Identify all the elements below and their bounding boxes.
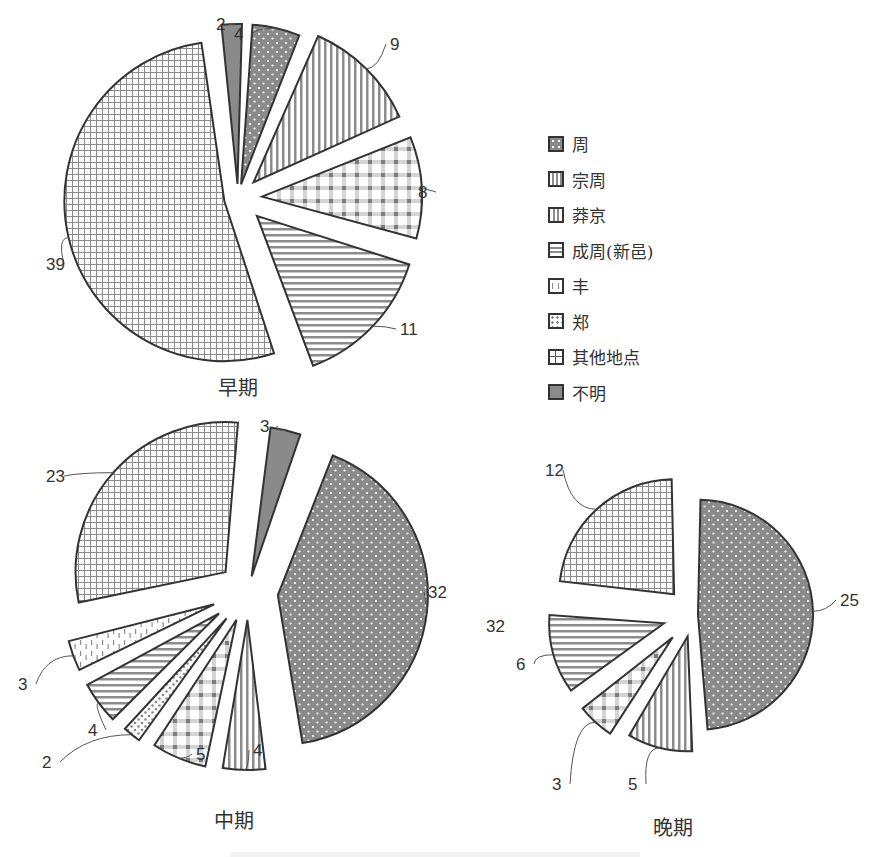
pie-slice xyxy=(257,216,409,366)
pie-slice xyxy=(698,500,813,730)
leader-line xyxy=(64,473,113,476)
leader-line xyxy=(534,655,554,664)
legend-item-zheng: 郑 xyxy=(548,304,653,340)
cropped-caption xyxy=(230,852,640,857)
stray-annotation-label: 32 xyxy=(486,617,505,636)
slice-value-label: 8 xyxy=(418,183,427,202)
slice-value-label: 23 xyxy=(46,467,65,486)
legend-item-pangjing: 莽京 xyxy=(548,197,653,233)
slice-value-label: 2 xyxy=(216,15,225,34)
slice-value-label: 5 xyxy=(628,775,637,794)
leader-line xyxy=(373,326,396,329)
early-period-title: 早期 xyxy=(218,372,258,401)
swatch-vertical-stripes-icon xyxy=(548,207,564,223)
swatch-horizontal-stripes-icon xyxy=(548,242,564,258)
legend-item-other: 其他地点 xyxy=(548,339,653,375)
legend-label: 丰 xyxy=(572,273,589,298)
late-period-title: 晚期 xyxy=(653,812,693,841)
slice-value-label: 4 xyxy=(234,25,243,44)
legend-item-chengzhou: 成周(新邑) xyxy=(548,233,653,269)
pie-chart-early: 24981139 xyxy=(46,15,436,366)
slice-value-label: 6 xyxy=(516,655,525,674)
pie-slice xyxy=(278,456,428,744)
leader-line xyxy=(646,748,660,784)
legend-label: 成周(新邑) xyxy=(572,238,653,263)
pie-charts-canvas: 249811393324524323255361232 xyxy=(0,0,880,857)
pie-chart-late: 255361232 xyxy=(486,461,859,794)
swatch-solid-gray-icon xyxy=(548,384,564,400)
swatch-grid-icon xyxy=(548,349,564,365)
swatch-dots-light-icon xyxy=(548,313,564,329)
slice-value-label: 3 xyxy=(260,417,269,436)
pie-slice xyxy=(560,479,674,594)
pie-slice xyxy=(221,24,242,184)
swatch-dashes-icon xyxy=(548,278,564,294)
legend-item-feng: 丰 xyxy=(548,268,653,304)
slice-value-label: 3 xyxy=(18,675,27,694)
legend-label: 不明 xyxy=(572,380,606,405)
leader-line xyxy=(813,600,836,611)
slice-value-label: 9 xyxy=(390,35,399,54)
leader-line xyxy=(563,470,597,509)
slice-value-label: 39 xyxy=(46,255,65,274)
leader-line xyxy=(36,656,73,684)
legend-item-zongzhou: 宗周 xyxy=(548,162,653,198)
middle-period-title: 中期 xyxy=(214,805,254,834)
slice-value-label: 4 xyxy=(253,741,262,760)
pie-slice xyxy=(76,422,238,602)
slice-value-label: 4 xyxy=(88,721,97,740)
legend-label: 宗周 xyxy=(572,167,606,192)
pie-slice xyxy=(549,615,664,690)
slice-value-label: 3 xyxy=(552,775,561,794)
slice-value-label: 5 xyxy=(196,745,205,764)
legend-item-zhou: 周 xyxy=(548,126,653,162)
legend-label: 其他地点 xyxy=(572,344,640,369)
legend-label: 周 xyxy=(572,131,589,156)
legend-label: 郑 xyxy=(572,309,589,334)
slice-value-label: 25 xyxy=(840,591,859,610)
swatch-gingham-icon xyxy=(548,171,564,187)
slice-value-label: 11 xyxy=(400,320,418,339)
leader-line xyxy=(366,44,386,69)
slice-value-label: 2 xyxy=(42,753,51,772)
charts-layer: 249811393324524323255361232 xyxy=(18,15,859,794)
legend: 周 宗周 莽京 成周(新邑) 丰 郑 其他地点 不明 xyxy=(548,126,653,410)
leader-line xyxy=(570,722,595,784)
legend-item-unknown: 不明 xyxy=(548,375,653,411)
pie-slice xyxy=(64,43,274,361)
slice-value-label: 12 xyxy=(545,461,564,480)
slice-value-label: 32 xyxy=(428,583,447,602)
swatch-dots-dark-icon xyxy=(548,136,564,152)
legend-label: 莽京 xyxy=(572,202,606,227)
pie-chart-middle: 3324524323 xyxy=(18,417,447,772)
